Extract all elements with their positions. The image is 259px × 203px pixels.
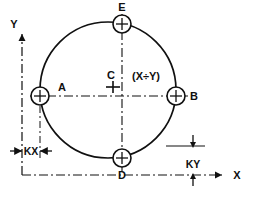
hole-a-label: A (58, 81, 66, 93)
y-axis-label: Y (10, 18, 18, 30)
hole-a (31, 87, 49, 105)
centerlines (30, 14, 188, 172)
x-axis-label: X (233, 169, 241, 181)
hole-b (167, 87, 185, 105)
engineering-diagram: Y X A B D E C (X÷Y) KX KY (0, 0, 259, 203)
ky-dimension-label: KY (186, 158, 201, 170)
hole-d-label: D (118, 169, 126, 181)
center-coordinate-label: (X÷Y) (132, 70, 160, 82)
hole-d (113, 149, 131, 167)
center-crosshair (106, 81, 120, 93)
diagram-canvas: Y X A B D E C (X÷Y) KX KY (0, 0, 259, 203)
hole-e-label: E (118, 1, 125, 13)
hole-e (113, 15, 131, 33)
center-label: C (107, 69, 115, 81)
hole-b-label: B (190, 90, 198, 102)
kx-dimension-label: KX (24, 145, 39, 157)
